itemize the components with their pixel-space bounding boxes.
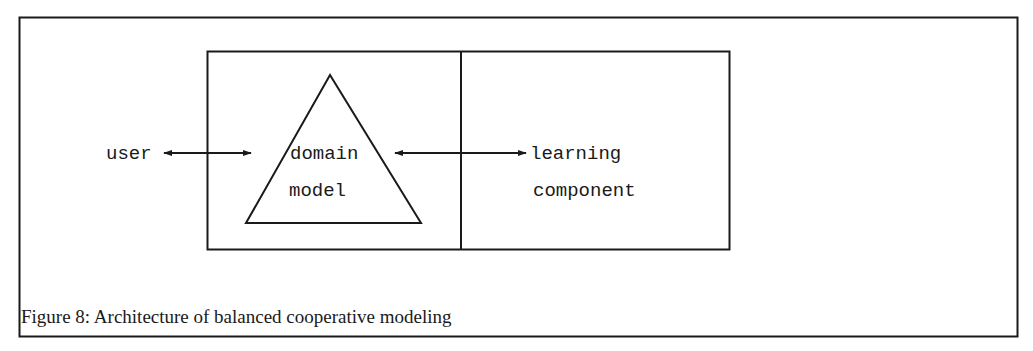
figure-frame xyxy=(20,18,1018,337)
system-box xyxy=(208,52,730,250)
user-label: user xyxy=(106,143,152,165)
learning-component-label-line2: component xyxy=(533,180,636,202)
learning-component-label-line1: learning xyxy=(530,143,621,165)
architecture-diagram: user domain model learning component Fig… xyxy=(0,0,1033,351)
figure-caption: Figure 8: Architecture of balanced coope… xyxy=(21,306,452,327)
domain-model-label-line1: domain xyxy=(290,143,358,165)
domain-model-label-line2: model xyxy=(289,180,346,202)
